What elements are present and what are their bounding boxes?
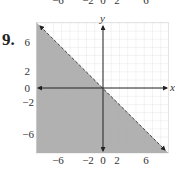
x-axis-label: x	[169, 81, 175, 93]
inequality-graph: x y 6 2 0 −2 −6 −6 −2 0 2 6	[0, 0, 175, 169]
y-tick-label: 6	[25, 36, 31, 48]
x-tick-label: 6	[143, 154, 149, 166]
x-tick-label: 0	[100, 154, 106, 166]
y-tick-label: 2	[25, 65, 31, 77]
y-tick-label: 0	[25, 82, 31, 94]
y-tick-label: −6	[22, 128, 34, 140]
x-tick-label: −2	[82, 154, 94, 166]
y-tick-label: −2	[22, 96, 34, 108]
y-axis-label: y	[99, 12, 105, 24]
x-tick-label: 2	[114, 154, 120, 166]
x-tick-label: −6	[52, 154, 64, 166]
